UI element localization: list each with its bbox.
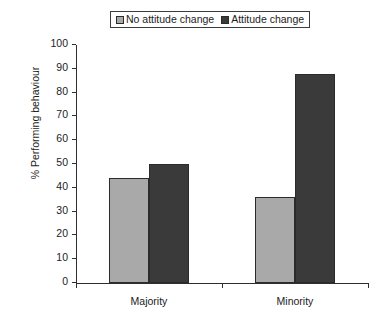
- y-tick-label-70: 70: [56, 108, 68, 121]
- x-tick-1: [222, 283, 223, 288]
- bar-majority-no-attitude-change: [109, 178, 149, 283]
- y-tick-label-90: 90: [56, 61, 68, 74]
- chart-legend: No attitude change Attitude change: [110, 11, 310, 28]
- legend-label-no-attitude-change: No attitude change: [126, 14, 214, 25]
- y-tick-label-80: 80: [56, 85, 68, 98]
- x-tick-2: [368, 283, 369, 288]
- y-tick-70: 70: [72, 115, 76, 116]
- x-axis-label-minority: Minority: [222, 295, 368, 308]
- plot-area: 0102030405060708090100 MajorityMinority: [76, 45, 368, 283]
- bar-chart: No attitude change Attitude change % Per…: [0, 0, 384, 316]
- y-tick-60: 60: [72, 139, 76, 140]
- y-tick-10: 10: [72, 258, 76, 259]
- y-tick-label-0: 0: [62, 275, 68, 288]
- y-tick-label-50: 50: [56, 156, 68, 169]
- y-tick-90: 90: [72, 68, 76, 69]
- y-tick-50: 50: [72, 163, 76, 164]
- legend-swatch-icon-no-attitude-change: [116, 16, 124, 24]
- bar-majority-attitude-change: [149, 164, 189, 283]
- x-axis-label-majority: Majority: [76, 295, 222, 308]
- y-tick-label-100: 100: [50, 37, 68, 50]
- y-tick-label-60: 60: [56, 132, 68, 145]
- legend-entry-attitude-change: Attitude change: [221, 12, 304, 27]
- y-tick-label-30: 30: [56, 204, 68, 217]
- y-axis-title: % Performing behaviour: [29, 28, 41, 218]
- bar-minority-no-attitude-change: [255, 197, 295, 283]
- legend-entry-no-attitude-change: No attitude change: [116, 12, 214, 27]
- y-tick-40: 40: [72, 187, 76, 188]
- y-tick-80: 80: [72, 92, 76, 93]
- y-tick-label-40: 40: [56, 180, 68, 193]
- y-axis-line: [76, 45, 77, 284]
- y-tick-label-20: 20: [56, 227, 68, 240]
- y-tick-100: 100: [72, 44, 76, 45]
- y-tick-20: 20: [72, 234, 76, 235]
- bar-minority-attitude-change: [295, 74, 335, 283]
- y-tick-label-10: 10: [56, 251, 68, 264]
- legend-swatch-icon-attitude-change: [221, 16, 229, 24]
- legend-label-attitude-change: Attitude change: [231, 14, 304, 25]
- y-tick-30: 30: [72, 211, 76, 212]
- x-tick-0: [76, 283, 77, 288]
